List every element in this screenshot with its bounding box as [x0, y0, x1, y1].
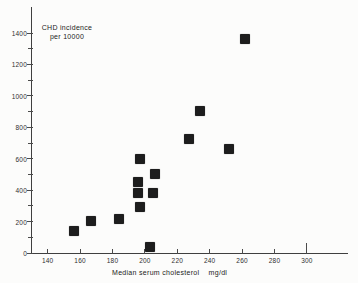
x-axis-unit-label: mg/dl [209, 269, 228, 276]
y-axis-line [31, 7, 32, 254]
x-axis-tick [80, 249, 81, 255]
y-axis-minor-tick [28, 174, 33, 175]
x-axis-title: Median serum cholesterol mg/dl [112, 269, 227, 276]
x-axis-tick-label: 140 [42, 257, 53, 264]
x-axis-tick-label: 260 [236, 257, 247, 264]
data-point [135, 154, 145, 164]
y-axis-tick-label: 1200 [3, 61, 27, 68]
data-point [133, 177, 143, 187]
data-point [133, 188, 143, 198]
y-axis-major-tick [27, 253, 33, 254]
y-axis-tick-label: 800 [3, 124, 27, 131]
y-axis-major-tick [27, 127, 33, 128]
y-axis-minor-tick [28, 237, 33, 238]
x-axis-tick [209, 249, 210, 255]
data-point [224, 144, 234, 154]
x-axis-label: Median serum cholesterol [112, 269, 199, 276]
x-axis-tick-label: 280 [269, 257, 280, 264]
x-axis-tick-label: 220 [172, 257, 183, 264]
data-point [114, 214, 124, 224]
y-axis-minor-tick [28, 205, 33, 206]
x-axis-tick-label: 180 [107, 257, 118, 264]
data-point [240, 34, 250, 44]
x-axis-line [31, 253, 348, 254]
data-point [86, 216, 96, 226]
x-axis-tick-label: 300 [301, 257, 312, 264]
scatter-chart: CHD incidence per 10000 0200400600800100… [0, 0, 358, 283]
data-point [135, 202, 145, 212]
y-axis-title: CHD incidence per 10000 [38, 23, 96, 42]
x-axis-tick-label: 200 [139, 257, 150, 264]
y-axis-title-line1: CHD incidence [38, 23, 96, 32]
y-axis-tick-label: 1400 [3, 30, 27, 37]
y-axis-title-line2: per 10000 [38, 32, 96, 41]
data-point [195, 106, 205, 116]
x-axis-tick [242, 249, 243, 255]
y-axis-minor-tick [28, 111, 33, 112]
y-axis-major-tick [27, 95, 33, 96]
y-axis-major-tick [27, 33, 33, 34]
y-axis-minor-tick [28, 143, 33, 144]
y-axis-major-tick [27, 190, 33, 191]
x-axis-tick [177, 249, 178, 255]
y-axis-minor-tick [28, 48, 33, 49]
y-axis-major-tick [27, 221, 33, 222]
data-point [145, 242, 155, 252]
y-axis-major-tick [27, 158, 33, 159]
y-axis-tick-label: 600 [3, 155, 27, 162]
y-axis-minor-tick [28, 80, 33, 81]
x-axis-tick [47, 249, 48, 255]
y-axis-tick-label: 0 [3, 250, 27, 257]
x-axis-tick-label: 240 [204, 257, 215, 264]
y-axis-tick-label: 1000 [3, 92, 27, 99]
x-axis-tick-label: 160 [74, 257, 85, 264]
x-axis-tick [274, 249, 275, 255]
x-axis-tick [112, 249, 113, 255]
y-axis-tick-label: 200 [3, 218, 27, 225]
data-point [69, 226, 79, 236]
y-axis-major-tick [27, 64, 33, 65]
y-axis-tick-label: 400 [3, 187, 27, 194]
data-point [184, 134, 194, 144]
data-point [148, 188, 158, 198]
x-axis-tick [306, 243, 307, 254]
data-point [150, 169, 160, 179]
